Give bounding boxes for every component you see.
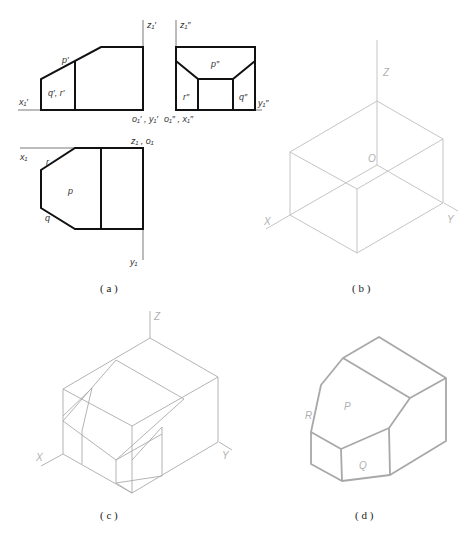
label-Q: Q [359, 460, 367, 471]
label-z1-dprime: z₁″ [179, 20, 191, 30]
mid-left-line [63, 421, 116, 460]
label-o1-y1-prime: o₁′ , y₁′ [132, 114, 158, 124]
box-hidden-y [377, 165, 443, 203]
label-z1-o1: z₁ , o₁ [130, 136, 154, 146]
panel-b: Z X Y O ( b ) [263, 40, 458, 295]
side-view: z₁″ y₁″ o₁″ , x₁″ p″ r″ q″ [164, 20, 269, 124]
y-axis [444, 203, 458, 211]
slant-face-lower-edge [311, 398, 410, 449]
box-front-edges [290, 139, 443, 253]
front-corner-edge [341, 449, 342, 481]
cut-front-left [116, 460, 132, 493]
label-o1-x1-dprime: o₁″ , x₁″ [164, 114, 194, 124]
label-z: Z [382, 67, 390, 78]
solid-outline [311, 337, 446, 481]
y-axis [219, 442, 232, 450]
front-view-outline [41, 47, 143, 110]
label-r-dprime: r″ [183, 92, 190, 102]
panel-c: Z X Y ( c ) [35, 311, 232, 522]
label-q-r-prime: q′, r′ [48, 88, 65, 98]
label-z1-prime: z₁′ [146, 20, 156, 30]
label-y1-dprime: y₁″ [257, 98, 269, 108]
top-view: x₁ z₁ , o₁ y₁ p r q [19, 136, 154, 267]
cut-front-right [116, 427, 162, 483]
box-top-face [290, 101, 443, 189]
label-x: X [263, 216, 271, 227]
top-ridge-edge [343, 358, 410, 398]
q-face-right-edge [389, 428, 390, 475]
label-y: Y [447, 214, 455, 225]
mid-right-line [116, 434, 162, 460]
label-y: Y [222, 450, 230, 461]
caption-b: ( b ) [352, 282, 371, 295]
label-q: q [45, 213, 50, 223]
plane-right-edge [116, 399, 184, 460]
label-p-dprime: p″ [210, 59, 220, 69]
top-right-edge [410, 378, 446, 398]
caption-a: ( a ) [100, 282, 118, 295]
figure-canvas: z₁′ x₁′ o₁′ , y₁′ p′ q′, r′ z₁″ y₁″ o₁″ … [0, 0, 474, 534]
label-R: R [305, 410, 312, 421]
top-view-outline [41, 148, 143, 229]
label-x1-prime: x₁′ [18, 97, 28, 107]
label-p-prime: p′ [61, 55, 69, 65]
front-view: z₁′ x₁′ o₁′ , y₁′ p′ q′, r′ [18, 20, 158, 124]
caption-d: ( d ) [355, 509, 374, 522]
x-axis [41, 454, 63, 466]
label-z: Z [153, 311, 161, 322]
panel-d: P R Q ( d ) [305, 337, 446, 522]
label-p: p [67, 186, 73, 196]
label-q-dprime: q″ [239, 92, 248, 102]
label-origin: O [368, 153, 376, 164]
label-y1: y₁ [129, 257, 138, 267]
box-hidden-x [290, 165, 377, 215]
label-P: P [344, 401, 351, 412]
caption-c: ( c ) [100, 509, 118, 522]
ridge-line [116, 360, 184, 399]
label-x1: x₁ [19, 152, 28, 162]
label-x: X [35, 452, 43, 463]
cut-left [82, 388, 92, 464]
panel-a: z₁′ x₁′ o₁′ , y₁′ p′ q′, r′ z₁″ y₁″ o₁″ … [18, 20, 269, 295]
